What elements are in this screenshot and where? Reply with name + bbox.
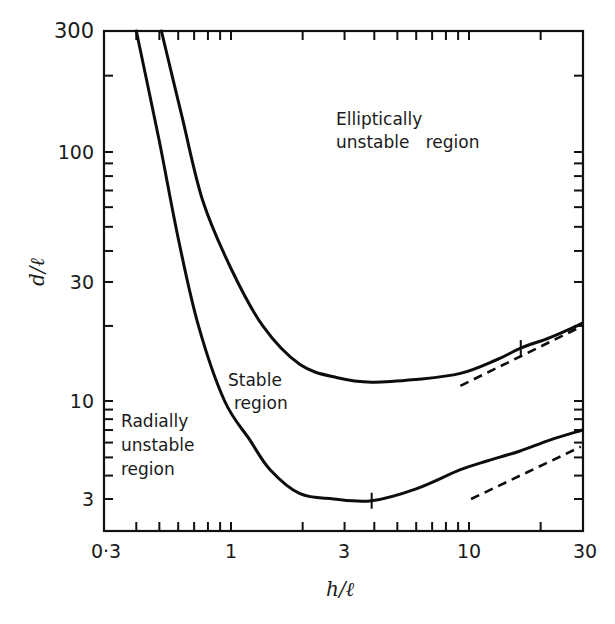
curves: [136, 31, 582, 509]
radial-label-line1: Radially: [121, 411, 188, 431]
x-tick-30: 30: [573, 540, 597, 562]
lower-boundary-curve: [136, 31, 582, 501]
stable-label-line1: Stable: [228, 370, 282, 390]
y-tick-3: 3: [82, 488, 94, 510]
x-tick-3: 3: [338, 540, 350, 562]
upper-asymptote-dashed: [460, 326, 582, 386]
y-axis-title: d/ℓ: [25, 257, 49, 286]
y-tick-labels: 300 100 30 10 3: [54, 19, 94, 510]
region-label-radial: Radially unstable region: [121, 411, 194, 479]
elliptic-label-line2: unstable region: [336, 132, 479, 152]
y-tick-300: 300: [54, 19, 94, 43]
lower-asymptote-dashed: [471, 447, 581, 499]
x-tick-0-3: 0·3: [91, 540, 121, 562]
region-label-stable: Stable region: [228, 370, 288, 413]
axis-ticks: [104, 31, 583, 531]
y-tick-10: 10: [70, 390, 94, 412]
y-tick-100: 100: [58, 141, 94, 163]
elliptic-label-line1: Elliptically: [336, 109, 422, 129]
y-tick-30: 30: [70, 271, 94, 293]
radial-label-line2: unstable: [121, 435, 194, 455]
x-tick-10: 10: [457, 540, 481, 562]
upper-boundary-curve: [161, 31, 582, 382]
x-tick-1: 1: [225, 540, 237, 562]
stable-label-line2: region: [234, 393, 288, 413]
x-axis-title: h/ℓ: [326, 577, 355, 601]
x-tick-labels: 0·3 1 3 10 30: [91, 540, 597, 562]
plot-frame: [104, 31, 583, 531]
stability-diagram: 300 100 30 10 3 0·3 1 3 10 30 h/ℓ d/ℓ El…: [0, 0, 615, 624]
region-label-elliptic: Elliptically unstable region: [336, 109, 479, 152]
radial-label-line3: region: [121, 459, 175, 479]
